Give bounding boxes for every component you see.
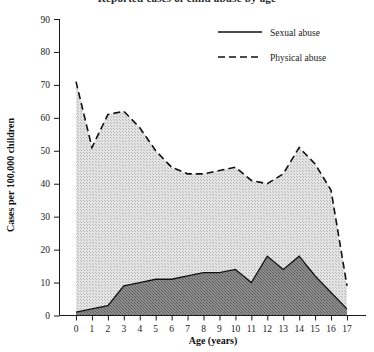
chart-legend: Sexual abuse Physical abuse bbox=[218, 28, 326, 63]
x-tick-label: 11 bbox=[247, 324, 256, 334]
y-tick-label: 30 bbox=[41, 212, 51, 222]
x-tick-label: 15 bbox=[310, 324, 320, 334]
x-tick-label: 17 bbox=[342, 324, 352, 334]
x-tick-label: 2 bbox=[106, 324, 111, 334]
x-tick-label: 3 bbox=[121, 324, 126, 334]
x-tick-label: 0 bbox=[74, 324, 79, 334]
x-tick-label: 10 bbox=[231, 324, 241, 334]
x-tick-label: 1 bbox=[90, 324, 95, 334]
y-tick-label: 10 bbox=[41, 278, 51, 288]
legend-label-sexual-abuse: Sexual abuse bbox=[270, 28, 320, 38]
y-tick-label: 60 bbox=[41, 113, 51, 123]
y-tick-label: 20 bbox=[41, 245, 51, 255]
chart-figure: Reported cases of child abuse by age bbox=[0, 0, 374, 352]
x-tick-label: 14 bbox=[294, 324, 304, 334]
plot-area bbox=[76, 82, 347, 316]
chart-canvas: 0102030405060708090 01234567891011121314… bbox=[0, 0, 374, 352]
y-tick-label: 80 bbox=[41, 47, 51, 57]
x-tick-label: 9 bbox=[217, 324, 222, 334]
y-axis-title: Cases per 100,000 children bbox=[5, 118, 16, 233]
y-tick-label: 40 bbox=[41, 179, 51, 189]
y-tick-label: 50 bbox=[41, 146, 51, 156]
x-tick-label: 7 bbox=[185, 324, 190, 334]
y-tick-label: 90 bbox=[41, 15, 51, 25]
x-tick-label: 16 bbox=[326, 324, 336, 334]
y-axis: 0102030405060708090 bbox=[41, 15, 60, 322]
x-tick-label: 13 bbox=[278, 324, 288, 334]
x-tick-label: 5 bbox=[153, 324, 158, 334]
x-tick-label: 6 bbox=[169, 324, 174, 334]
y-tick-label: 0 bbox=[45, 311, 50, 321]
x-axis-title: Age (years) bbox=[189, 335, 238, 347]
x-tick-label: 4 bbox=[137, 324, 142, 334]
x-tick-label: 12 bbox=[263, 324, 273, 334]
legend-label-physical-abuse: Physical abuse bbox=[270, 53, 326, 63]
y-tick-label: 70 bbox=[41, 80, 51, 90]
x-tick-label: 8 bbox=[201, 324, 206, 334]
x-axis: 01234567891011121314151617 bbox=[60, 316, 367, 334]
